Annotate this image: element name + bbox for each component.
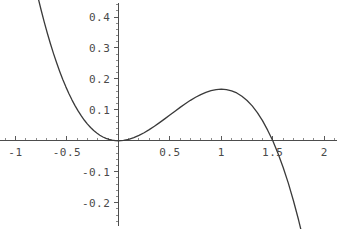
x-tick-label: -1 [8, 147, 22, 158]
x-tick-label: 1 [218, 147, 225, 158]
y-tick-label: -0.1 [82, 166, 111, 177]
y-tick-label: 0.2 [89, 73, 110, 84]
x-tick-label: 0.5 [159, 147, 180, 158]
y-tick-label: 0.4 [89, 12, 110, 23]
y-tick-label: 0.1 [89, 104, 110, 115]
plot-figure: -1-0.50.511.52 0.40.30.20.1-0.1-0.2 [0, 0, 350, 229]
plot-canvas [0, 0, 350, 229]
minor-tick-marks [5, 5, 334, 222]
data-curve [35, 0, 319, 229]
y-tick-label: -0.2 [82, 197, 111, 208]
major-tick-marks [15, 17, 324, 203]
y-tick-label: 0.3 [89, 42, 110, 53]
x-tick-label: -0.5 [53, 147, 82, 158]
x-tick-label: 1.5 [262, 147, 283, 158]
x-tick-label: 2 [321, 147, 328, 158]
